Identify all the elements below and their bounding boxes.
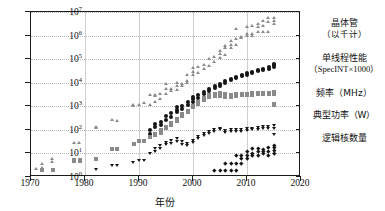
data-point [164,126,168,130]
data-point [272,133,276,136]
x-axis-tick-label: 2010 [237,179,256,189]
y-axis-tick-right [296,129,300,130]
data-point [229,39,233,42]
data-point [229,46,233,49]
data-point [229,130,233,133]
data-point [164,118,168,122]
x-axis-title: 年份 [155,194,175,209]
data-point [186,110,190,114]
y-axis-tick [25,152,30,153]
data-point [212,130,216,133]
data-point [218,128,222,131]
data-point [240,74,244,78]
legend-entry: 单线程性能（SpecINT×1000） [303,53,385,75]
data-point [159,123,163,127]
legend-entry: 频率（MHz） [303,88,385,99]
data-point [224,168,228,172]
data-point [245,25,249,28]
legend-entry-label: 典型功率（W） [303,110,385,121]
data-point [207,132,211,135]
y-axis-tick-right [296,58,300,59]
legend-entry-sublabel: （以千计） [303,29,385,40]
data-point [261,24,265,27]
data-point [185,79,189,82]
data-point [250,34,254,37]
data-point [229,161,233,165]
data-point [234,37,238,40]
data-point [185,144,189,147]
legend-entry-label: 逻辑核数量 [303,133,385,144]
data-point [185,73,189,76]
y-axis-tick [25,11,30,12]
data-point [142,139,146,143]
data-point [256,30,260,33]
data-point [175,88,179,91]
data-point [186,103,190,107]
data-point [153,133,157,137]
legend-entry-label: 单线程性能 [303,53,385,64]
data-point [148,103,152,106]
data-point [153,100,157,103]
data-point [272,102,276,106]
data-point [245,73,249,77]
data-point [234,43,238,46]
data-point [256,92,260,96]
data-point [223,95,227,99]
data-point [72,141,76,144]
data-point [250,128,254,131]
data-point [153,125,157,129]
data-point [191,95,195,99]
data-point [148,152,152,155]
y-axis-tick-right [296,105,300,106]
data-point [131,104,135,107]
data-point [137,103,141,106]
data-point [267,67,271,71]
data-point [169,142,173,145]
data-point [239,35,243,38]
data-point [40,168,44,172]
data-point [266,16,270,19]
data-point [207,64,211,67]
data-point [234,154,238,158]
data-point [34,167,38,170]
data-point [142,159,146,162]
data-point [261,152,265,156]
data-point [132,142,136,146]
x-axis-tick-label: 1980 [75,179,94,189]
data-point [266,30,270,33]
data-point [250,24,254,27]
data-point [240,157,244,161]
data-point [137,139,141,143]
data-point [142,101,146,104]
x-axis-tick-label: 1990 [129,179,148,189]
data-point [229,43,233,46]
data-point [256,128,260,131]
data-point [159,131,163,135]
data-point [213,168,217,172]
y-axis-tick-label: 102 [69,124,82,136]
data-point [272,127,276,130]
data-point [94,168,98,171]
data-point [50,160,54,163]
data-point [175,119,179,123]
chart-root: 100101102103104105106107 197019801990200… [0,0,385,211]
data-point [261,19,265,22]
data-point [266,20,270,23]
data-point [261,30,265,33]
data-point [245,34,249,37]
data-point [218,49,222,52]
data-point [272,22,276,25]
data-point [191,141,195,144]
y-axis-tick-label: 103 [69,100,82,112]
data-point [148,93,152,96]
data-point [234,130,238,133]
data-point [169,123,173,127]
data-point [218,56,222,59]
data-point [218,52,222,55]
data-point [196,137,200,140]
y-axis-tick [25,58,30,59]
data-point [261,68,265,72]
data-point [218,94,222,98]
data-point [234,27,238,30]
data-point [202,98,206,102]
